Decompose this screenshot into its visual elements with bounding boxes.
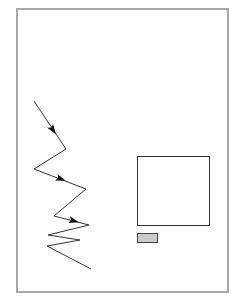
zigzag-path xyxy=(34,101,91,269)
large-square xyxy=(138,157,210,226)
arrowhead-icon xyxy=(55,174,67,184)
arrowhead-icon xyxy=(68,216,79,225)
small-gray-box xyxy=(138,234,158,243)
arrowhead-icon xyxy=(47,124,58,136)
diagram-svg xyxy=(0,0,244,302)
diagram-canvas xyxy=(0,0,244,302)
arrowheads xyxy=(47,124,79,226)
